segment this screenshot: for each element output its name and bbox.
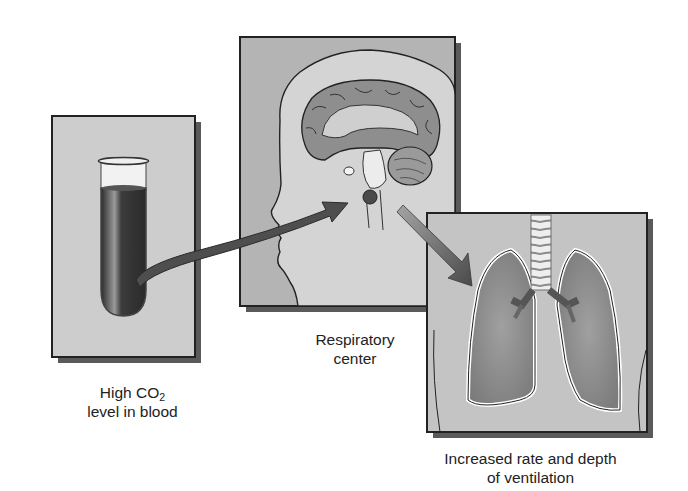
label-text: Increased rate and depth: [444, 450, 616, 467]
label-text: High CO: [100, 384, 159, 401]
lungs-panel: [427, 213, 653, 438]
label-text: Respiratory: [315, 331, 394, 348]
label-text: of ventilation: [487, 469, 574, 486]
respiratory-center-marker: [363, 190, 377, 204]
test-tube-icon: [99, 158, 149, 317]
trachea-icon: [531, 215, 551, 290]
blood-co2-label: High CO2 level in blood: [60, 383, 205, 421]
label-text: center: [333, 350, 376, 367]
respiratory-center-label: Respiratory center: [280, 330, 430, 368]
ventilation-label: Increased rate and depth of ventilation: [408, 449, 653, 487]
label-text: level in blood: [87, 403, 177, 420]
subscript-text: 2: [159, 391, 165, 403]
blood-sample-panel: [52, 116, 201, 363]
